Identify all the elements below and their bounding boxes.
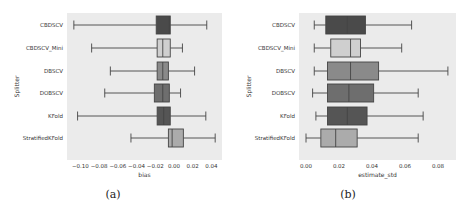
figure-caption: (b) [340, 188, 356, 201]
x-tick-label: 0.06 [399, 163, 411, 169]
x-tick-label: 0.02 [333, 163, 345, 169]
y-axis-label: Splitter [245, 74, 252, 98]
x-tick-label: 0.04 [366, 163, 378, 169]
x-axis-label: estimate_std [358, 171, 397, 178]
box-cbdscv_mini [314, 39, 401, 57]
boxplot-svg [0, 0, 469, 207]
box-dbscv [314, 62, 448, 80]
box-stratifiedkfold [306, 129, 418, 147]
box-kfold [316, 107, 423, 125]
chart-panel-b: CBDSCVCBDSCV_MiniDBSCVDOBSCVKFoldStratif… [0, 0, 469, 207]
x-tick-label: 0.08 [432, 163, 444, 169]
box-cbdscv [314, 16, 411, 34]
x-tick-label: 0.00 [300, 163, 312, 169]
box-dobscv [313, 84, 419, 102]
